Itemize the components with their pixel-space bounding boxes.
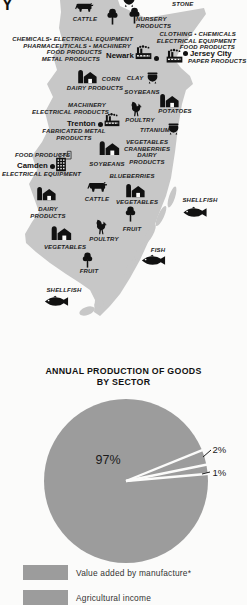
building-icon	[55, 157, 67, 172]
city-label-trenton: Trenton	[67, 119, 96, 128]
trenton-industry: FABRICATED METAL PRODUCTS	[27, 128, 121, 141]
nursery-tree-icon	[107, 8, 118, 25]
map-label: POULTRY	[122, 117, 158, 124]
map-label: BLUEBERRIES	[107, 173, 157, 180]
factory-icon	[135, 45, 152, 60]
clay-pot-icon	[145, 72, 160, 84]
legend-swatch-agriculture	[23, 590, 68, 605]
cattle-icon	[74, 1, 94, 13]
map-label: NURSERY PRODUCTS	[136, 16, 176, 29]
factory-icon	[166, 48, 183, 64]
pie-label-1: 1%	[213, 467, 227, 478]
trenton-city-dot	[98, 122, 103, 127]
pie-chart: 97% 2% 1%	[0, 393, 247, 570]
cattle-icon	[86, 180, 108, 193]
map-label: FISH	[146, 247, 170, 254]
map-label: POTATOES	[155, 108, 195, 115]
camden-industry: ELECTRICAL EQUIPMENT	[2, 171, 81, 178]
newark-industry: METAL PRODUCTS	[42, 56, 100, 63]
map-label: SOYBEANS	[122, 89, 162, 96]
map-label: CATTLE	[82, 196, 112, 203]
trenton-industry: ELECTRICAL PRODUCTS	[32, 109, 109, 116]
legend-swatch-manufacture	[23, 565, 68, 580]
jersey-city-dot	[183, 51, 188, 56]
map-label: SHELLFISH	[180, 197, 220, 204]
vegetables-barn-icon	[124, 182, 146, 198]
fish-icon	[140, 254, 167, 266]
dairy-barn-icon	[35, 185, 57, 201]
vegetables-barn-icon	[50, 224, 72, 241]
map-label: VEGETABLES CRANBERRIES DAIRY PRODUCTS	[120, 139, 174, 165]
map-title-fragment: Y	[2, 0, 13, 14]
map-label: DAIRY PRODUCTS	[20, 206, 76, 219]
shellfish-icon	[43, 295, 70, 307]
city-label-camden: Camden	[17, 161, 48, 170]
legend-label-manufacture: Value added by manufacture*	[76, 568, 191, 578]
factory-icon	[104, 113, 120, 127]
map-label: FRUIT	[76, 268, 102, 275]
map-label: CATTLE	[65, 16, 105, 23]
poultry-rooster-icon	[94, 219, 109, 235]
jersey-city-industry: PAPER PRODUCTS	[188, 58, 246, 65]
map-label: DAIRY PRODUCTS	[64, 85, 126, 92]
map-label: TITANIUM	[136, 127, 174, 134]
poultry-rooster-icon	[129, 101, 144, 117]
city-label-newark: Newark	[106, 51, 134, 60]
shellfish-icon	[181, 206, 209, 218]
map-label: VEGETABLES	[115, 199, 159, 206]
map-label: VEGETABLES	[42, 244, 88, 251]
fruit-tree-icon	[82, 252, 93, 268]
legend-label-agriculture: Agricultural income	[76, 593, 151, 603]
map-label: SHELLFISH	[44, 287, 84, 294]
vegetables-barn-icon	[98, 139, 120, 156]
city-label-jersey-city: Jersey City	[190, 49, 232, 58]
stone-pot-icon	[120, 0, 138, 7]
map-label: POULTRY	[88, 236, 120, 243]
pie-label-2: 2%	[213, 444, 227, 455]
chart-title: ANNUAL PRODUCTION OF GOODS BY SECTOR	[20, 366, 227, 389]
map-label: SOYBEANS	[88, 161, 126, 168]
dairy-barn-icon	[76, 68, 98, 84]
newark-city-dot	[154, 56, 159, 61]
map-label: STONE	[172, 1, 212, 8]
fruit-tree-icon	[125, 206, 136, 222]
page: Y CATTLE STONE NURSERY PRODUCTS CORN CLA…	[0, 0, 247, 605]
map-label: CLAY	[124, 75, 146, 82]
map-label: CORN	[96, 76, 126, 83]
map-label: FRUIT	[118, 226, 146, 233]
pie-label-97: 97%	[95, 453, 120, 467]
